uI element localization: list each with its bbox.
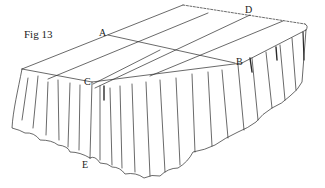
top-front-edge — [22, 63, 242, 82]
front-right-edge — [242, 30, 306, 63]
label-a: A — [99, 28, 106, 38]
skirt-front-hem — [90, 30, 306, 178]
line-c — [93, 50, 160, 84]
panel-line-2 — [95, 15, 250, 88]
top-back-edge-dashed — [183, 5, 305, 24]
label-e: E — [82, 160, 88, 170]
corner-fold — [90, 82, 92, 158]
skirt-left-side — [12, 69, 90, 158]
label-b: B — [236, 57, 243, 67]
bed-skirt-illustration — [0, 0, 325, 188]
label-c: C — [84, 77, 91, 87]
label-d: D — [245, 5, 252, 15]
